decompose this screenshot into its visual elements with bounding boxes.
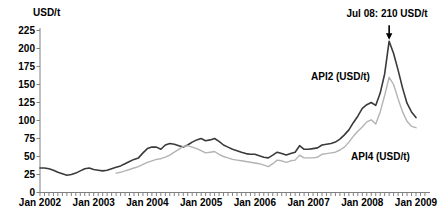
api4-series-label: API4 (USD/t) <box>351 151 410 163</box>
x-axis-tick-label: Jan 2003 <box>73 197 116 208</box>
y-axis-tick-label: 25 <box>24 169 36 180</box>
y-axis-tick-label: 125 <box>18 97 35 108</box>
y-axis-tick-label: 200 <box>18 43 35 54</box>
y-axis-tick-label: 100 <box>18 115 35 126</box>
x-axis-tick-label: Jan 2004 <box>126 197 169 208</box>
y-axis-tick-label: 225 <box>18 25 35 36</box>
x-axis-tick-label: Jan 2008 <box>341 197 384 208</box>
x-axis-tick-label: Jan 2009 <box>395 197 438 208</box>
y-axis-tick-label: 75 <box>24 133 36 144</box>
x-axis-tick-label: Jan 2002 <box>19 197 62 208</box>
x-axis-tick-label: Jan 2006 <box>234 197 277 208</box>
peak-annotation: Jul 08: 210 USD/t <box>332 8 442 20</box>
api2-series-label: API2 (USD/t) <box>311 71 370 83</box>
y-axis-tick-label: 50 <box>24 151 36 162</box>
plot-area: 0255075100125150175200225Jan 2002Jan 200… <box>0 0 446 224</box>
x-axis-tick-label: Jan 2005 <box>180 197 223 208</box>
peak-arrow-icon <box>386 33 392 40</box>
y-axis-unit-label: USD/t <box>33 7 60 19</box>
y-axis-tick-label: 150 <box>18 79 35 90</box>
price-chart: 0255075100125150175200225Jan 2002Jan 200… <box>0 0 446 224</box>
x-axis-tick-label: Jan 2007 <box>287 197 330 208</box>
y-axis-tick-label: 175 <box>18 61 35 72</box>
